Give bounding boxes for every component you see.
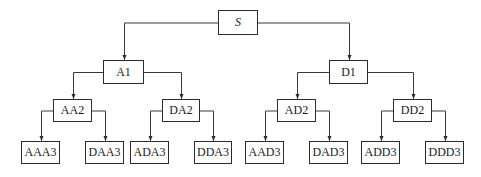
node-add3: ADD3 xyxy=(361,141,400,164)
node-dad3: DAD3 xyxy=(309,141,348,164)
node-ddd3: DDD3 xyxy=(425,141,464,164)
node-dd2: DD2 xyxy=(393,99,432,122)
node-aad3: AAD3 xyxy=(245,141,284,164)
node-aa2: AA2 xyxy=(53,99,92,122)
node-dda3: DDA3 xyxy=(194,141,232,164)
node-ad2: AD2 xyxy=(277,99,316,122)
node-aaa3: AAA3 xyxy=(21,141,60,164)
node-d1: D1 xyxy=(329,60,368,84)
node-daa3: DAA3 xyxy=(85,141,124,164)
node-a1: A1 xyxy=(103,60,144,84)
tree-diagram: S A1 D1 AA2 DA2 AD2 DD2 AAA3 DAA3 ADA3 D… xyxy=(0,0,481,177)
node-s: S xyxy=(218,10,258,35)
node-ada3: ADA3 xyxy=(130,141,169,164)
node-da2: DA2 xyxy=(162,99,200,122)
